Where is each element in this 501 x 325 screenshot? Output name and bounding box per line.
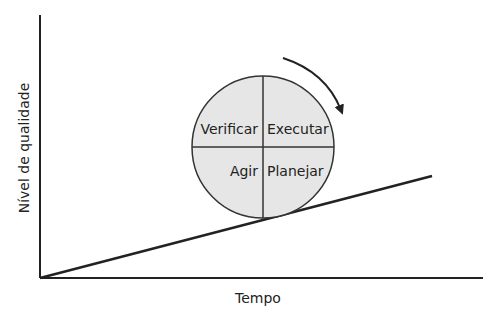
y-axis-label: Nível de qualidade [16,83,32,214]
quadrant-label-agir: Agir [230,163,258,179]
pdca-diagram: Verificar Executar Agir Planejar Tempo N… [0,0,501,325]
quadrant-label-executar: Executar [267,121,329,137]
quadrant-label-verificar: Verificar [200,121,258,137]
x-axis-label: Tempo [234,290,281,306]
quadrant-label-planejar: Planejar [267,163,324,179]
